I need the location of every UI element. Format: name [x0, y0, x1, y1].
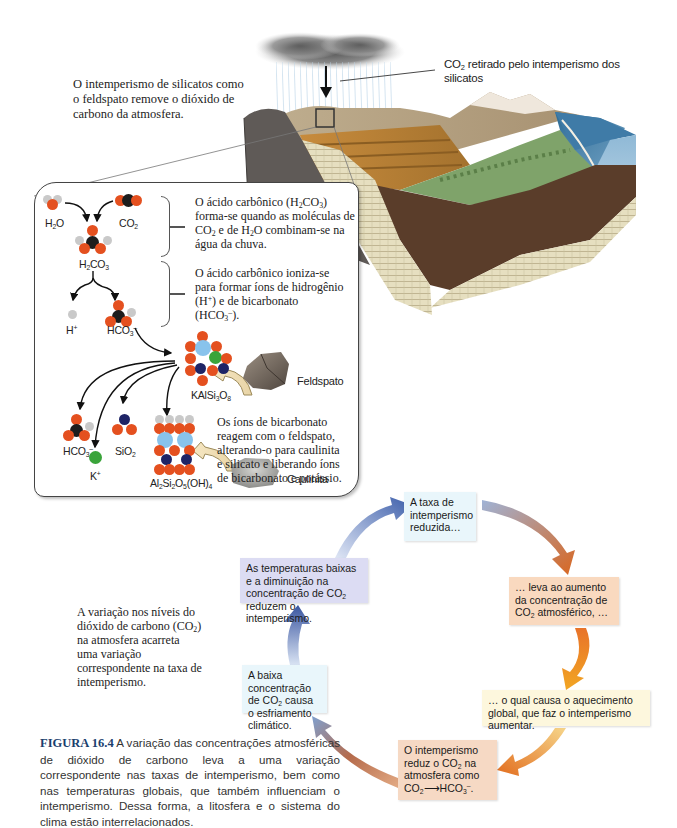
cycle-step-reduced-weathering: A taxa de intemperismo reduzida… — [404, 492, 476, 541]
reaction-arrow-icon: ⟶ — [424, 782, 440, 794]
cycle-arrow-6 — [335, 497, 412, 558]
cycle-arrow-2 — [562, 628, 589, 690]
cycle-step-low-co2-cooling: A baixa concentração de CO2 causa o esfr… — [242, 665, 327, 713]
figure-caption: FIGURA 16.4 A variação das concentrações… — [40, 735, 340, 828]
cycle-arrow-1 — [482, 500, 575, 575]
cycle-step-weathering-reduces-co2: O intemperismo reduz o CO2 na atmosfera … — [398, 740, 497, 800]
cycle-step-co2-increase: … leva ao aumento da concentração de CO2… — [509, 577, 619, 625]
cycle-arrow-3 — [497, 728, 566, 776]
figure-label: FIGURA 16.4 — [40, 736, 114, 750]
cycle-step-global-warming: … o qual causa o aquecimento global, que… — [482, 690, 650, 726]
cycle-step-low-temps: As temperaturas baixas e a diminuição na… — [240, 558, 368, 603]
cycle-side-note: A variação nos níveis do dióxido de carb… — [77, 605, 202, 689]
